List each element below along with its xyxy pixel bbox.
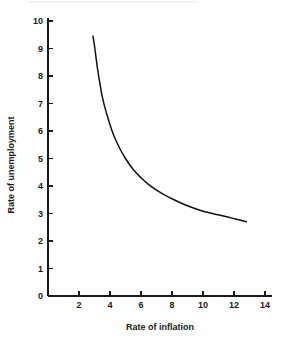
y-tick-label: 5 — [38, 154, 43, 164]
y-tick-label: 10 — [33, 16, 43, 26]
x-axis-title: Rate of inflation — [126, 322, 194, 332]
phillips-curve-chart: 012345678910 2468101214 Rate of inflatio… — [0, 0, 281, 338]
y-axis-tick-labels: 012345678910 — [33, 16, 43, 301]
x-tick-label: 4 — [107, 300, 112, 310]
y-tick-label: 4 — [38, 181, 43, 191]
chart-container: 012345678910 2468101214 Rate of inflatio… — [0, 0, 281, 338]
y-tick-label: 9 — [38, 44, 43, 54]
x-tick-label: 2 — [76, 300, 81, 310]
x-tick-label: 10 — [198, 300, 208, 310]
y-axis-ticks — [48, 21, 53, 269]
y-axis-title: Rate of unemployment — [6, 116, 16, 213]
y-tick-label: 8 — [38, 71, 43, 81]
y-tick-label: 2 — [38, 236, 43, 246]
scan-artifact — [28, 1, 198, 3]
x-axis-ticks — [79, 291, 265, 296]
y-tick-label: 3 — [38, 209, 43, 219]
y-tick-label: 0 — [38, 291, 43, 301]
x-axis-tick-labels: 2468101214 — [76, 300, 270, 310]
y-axis: 012345678910 — [33, 16, 53, 301]
x-tick-label: 14 — [260, 300, 270, 310]
x-tick-label: 6 — [138, 300, 143, 310]
y-tick-label: 1 — [38, 264, 43, 274]
phillips-curve-line — [93, 36, 246, 222]
x-tick-label: 8 — [169, 300, 174, 310]
x-axis: 2468101214 — [48, 291, 272, 310]
x-tick-label: 12 — [229, 300, 239, 310]
y-tick-label: 6 — [38, 126, 43, 136]
y-tick-label: 7 — [38, 99, 43, 109]
